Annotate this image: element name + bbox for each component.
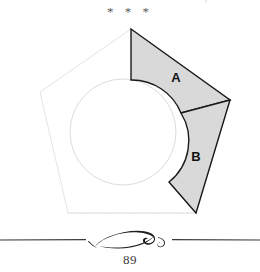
page-footer: 89 — [0, 228, 260, 272]
region-b-label: B — [191, 149, 200, 164]
circle-outline — [70, 79, 176, 185]
page-canvas: j * * * A B 89 — [0, 0, 260, 272]
page-number: 89 — [0, 252, 260, 268]
region-a-label: A — [171, 70, 181, 85]
flourish-divider-ornament — [0, 228, 260, 252]
rule-left — [0, 239, 86, 240]
flourish-hook-right — [157, 237, 165, 247]
flourish-upper-swash — [95, 231, 155, 247]
rule-right — [172, 239, 260, 240]
flourish-lower-swash — [97, 235, 155, 248]
geometry-figure: A B — [0, 0, 260, 228]
